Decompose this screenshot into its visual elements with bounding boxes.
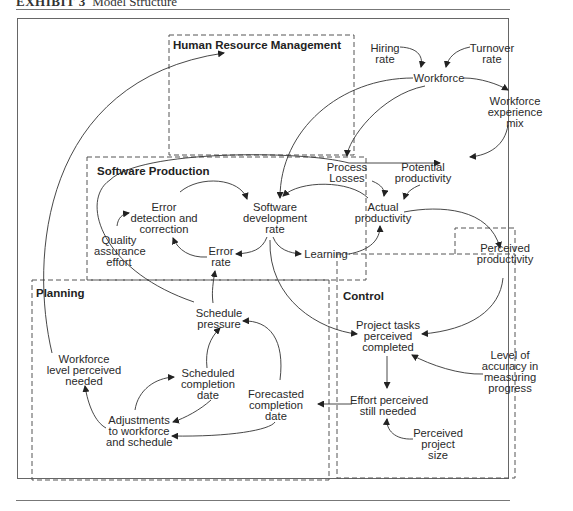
section-title-software-production: Software Production (97, 165, 209, 177)
node-workforce-experience-mix: Workforceexperiencemix (485, 96, 545, 129)
node-potential-productivity: Potentialproductivity (382, 162, 464, 184)
section-title-planning: Planning (36, 287, 85, 299)
section-box-hrm (169, 35, 354, 155)
node-workforce-level-perceived-needed: Workforcelevel perceivedneeded (44, 354, 124, 387)
node-forecasted-completion-date: Forecastedcompletiondate (245, 389, 307, 422)
node-error-detection-correction: Errordetection andcorrection (130, 202, 198, 235)
node-turnover-rate: Turnoverrate (467, 43, 517, 65)
node-actual-productivity: Actualproductivity (348, 202, 418, 224)
node-level-of-accuracy: Level ofaccuracy inmeasuringprogress (480, 350, 540, 394)
node-software-development-rate: Softwaredevelopmentrate (240, 202, 310, 235)
node-adjustments: Adjustmentsto workforceand schedule (106, 415, 172, 448)
node-scheduled-completion-date: Scheduledcompletiondate (180, 368, 236, 401)
node-perceived-project-size: Perceivedprojectsize (413, 428, 463, 461)
node-hiring-rate: Hiringrate (368, 43, 402, 65)
node-schedule-pressure: Schedulepressure (193, 308, 245, 330)
node-perceived-productivity: Perceivedproductivity (467, 243, 543, 265)
section-title-control: Control (343, 290, 384, 302)
node-learning: Learning (302, 249, 350, 260)
node-effort-perceived-still-needed: Effort perceivedstill needed (350, 395, 426, 417)
section-title-hrm: Human Resource Management (173, 39, 341, 51)
node-workforce: Workforce (411, 73, 467, 84)
node-process-losses: ProcessLosses (322, 162, 372, 184)
node-quality-assurance-effort: Qualityassuranceeffort (94, 235, 144, 268)
node-project-tasks-perceived-completed: Project tasksperceivedcompleted (355, 320, 421, 353)
node-error-rate: Errorrate (204, 246, 238, 268)
